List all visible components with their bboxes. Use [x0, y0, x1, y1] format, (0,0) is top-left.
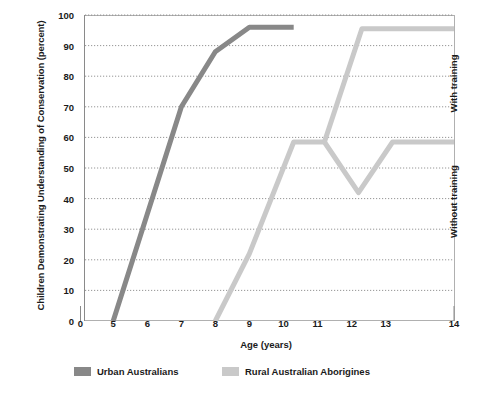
legend-item-rural: Rural Australian Aborigines: [222, 366, 370, 377]
x-tick-14: 14: [449, 318, 460, 329]
chart-figure: Children Demonstrating Understanding of …: [0, 0, 477, 397]
y-tick-0: 0: [48, 316, 74, 327]
x-tick-11: 11: [313, 318, 323, 329]
x-tick-7: 7: [179, 318, 184, 329]
x-tick-10: 10: [278, 318, 289, 329]
x-tick-5: 5: [111, 318, 116, 329]
plot-area-frame: [84, 15, 455, 321]
legend-item-urban: Urban Australians: [74, 366, 178, 377]
x-tick-0: 0: [78, 318, 83, 329]
y-tick-60: 60: [48, 132, 74, 143]
x-tick-8: 8: [213, 318, 218, 329]
legend-swatch-icon-rural: [222, 367, 239, 376]
y-tick-30: 30: [48, 224, 74, 235]
y-tick-10: 10: [48, 285, 74, 296]
y-tick-20: 20: [48, 254, 74, 265]
y-tick-70: 70: [48, 101, 74, 112]
x-axis-title: Age (years): [77, 339, 455, 350]
legend-label-rural: Rural Australian Aborigines: [245, 366, 370, 377]
annotation-without-training: Without training: [448, 144, 459, 259]
chart-legend: Urban Australians Rural Australian Abori…: [0, 366, 477, 384]
y-axis-title: Children Demonstrating Understanding of …: [35, 6, 46, 326]
x-tick-6: 6: [145, 318, 150, 329]
x-tick-13: 13: [381, 318, 392, 329]
annotation-with-training: With training: [448, 34, 459, 134]
y-axis-tick-labels: 100 90 80 70 60 50 40 30 20 10 0: [46, 0, 74, 397]
y-axis-spine: [84, 15, 85, 321]
y-tick-80: 80: [48, 71, 74, 82]
x-tick-12: 12: [346, 318, 357, 329]
x-tick-9: 9: [247, 318, 252, 329]
y-tick-90: 90: [48, 40, 74, 51]
y-tick-50: 50: [48, 163, 74, 174]
legend-label-urban: Urban Australians: [97, 366, 178, 377]
y-tick-100: 100: [48, 10, 74, 21]
y-tick-40: 40: [48, 193, 74, 204]
legend-swatch-icon-urban: [74, 367, 91, 376]
